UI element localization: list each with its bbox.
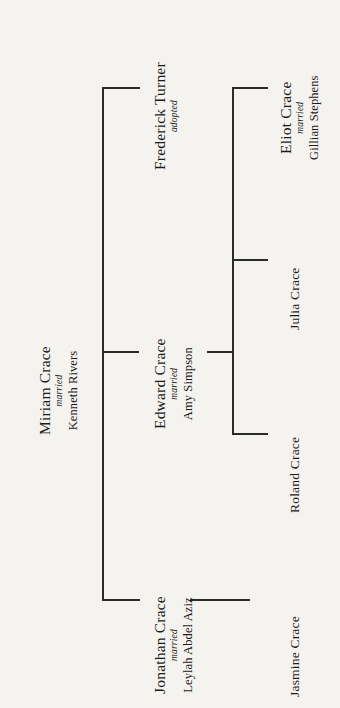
person-relation-label: married — [169, 338, 180, 429]
connector-miriam-to-trunk — [103, 351, 139, 353]
person-name: Eliot Crace — [277, 75, 294, 160]
person-relation-label: married — [54, 346, 65, 435]
family-tree-diagram: Miriam Crace married Kenneth Rivers Fred… — [0, 0, 340, 708]
person-spouse-name: Gillian Stephens — [307, 75, 321, 160]
person-spouse-name: Amy Simpson — [181, 338, 195, 429]
person-name: Edward Crace — [151, 338, 168, 429]
connector-trunk-to-roland — [232, 433, 268, 435]
connector-trunk-generation-2 — [102, 87, 104, 601]
person-frederick-turner: Frederick Turner adopted — [151, 62, 180, 170]
person-name: Frederick Turner — [151, 62, 168, 170]
person-name: Roland Crace — [287, 437, 302, 513]
person-roland-crace: Roland Crace — [287, 437, 302, 513]
person-eliot-crace: Eliot Crace married Gillian Stephens — [277, 75, 321, 160]
person-spouse-name: Kenneth Rivers — [66, 346, 80, 435]
person-edward-crace: Edward Crace married Amy Simpson — [151, 338, 195, 429]
connector-jonathan-to-jasmine — [190, 599, 250, 601]
person-relation-label: married — [295, 75, 306, 160]
person-julia-crace: Julia Crace — [287, 267, 302, 330]
connector-trunk-generation-3 — [232, 87, 234, 435]
person-jonathan-crace: Jonathan Crace married Leylah Abdel Aziz — [151, 596, 195, 694]
person-jasmine-crace: Jasmine Crace — [287, 616, 302, 697]
connector-edward-to-trunk — [207, 351, 234, 353]
person-name: Julia Crace — [287, 267, 302, 330]
person-relation-label: married — [169, 596, 180, 694]
connector-trunk-to-frederick — [102, 87, 140, 89]
person-name: Jonathan Crace — [151, 596, 168, 694]
connector-trunk-to-julia — [232, 259, 268, 261]
person-name: Jasmine Crace — [287, 616, 302, 697]
connector-trunk-to-eliot — [232, 87, 268, 89]
person-spouse-name: Leylah Abdel Aziz — [181, 596, 195, 694]
connector-trunk-to-jonathan — [102, 599, 140, 601]
person-name: Miriam Crace — [36, 346, 53, 435]
person-relation-label: adopted — [169, 62, 180, 170]
person-miriam-crace: Miriam Crace married Kenneth Rivers — [36, 346, 80, 435]
